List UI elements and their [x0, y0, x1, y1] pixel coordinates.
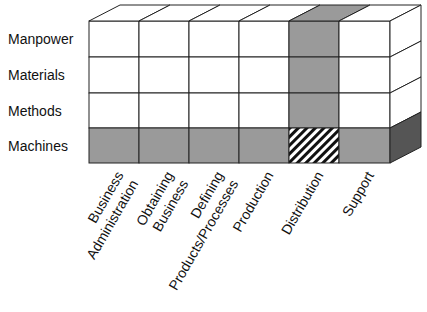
matrix-cell	[139, 21, 189, 57]
matrix-cell	[339, 21, 390, 57]
row-label: Methods	[8, 103, 62, 119]
matrix-cell	[89, 57, 139, 93]
column-label: ObtainingBusiness	[133, 169, 192, 237]
matrix-cell	[89, 128, 139, 163]
matrix-cell	[189, 21, 239, 57]
matrix-cell	[289, 57, 339, 93]
matrix-cell	[339, 57, 390, 93]
matrix-cell	[339, 93, 390, 128]
matrix-cell	[89, 21, 139, 57]
row-label: Materials	[8, 67, 65, 83]
column-label: Support	[339, 168, 377, 219]
matrix-cell	[139, 128, 189, 163]
svg-text:Production: Production	[229, 169, 276, 235]
svg-text:Distribution: Distribution	[278, 169, 327, 238]
matrix-cell	[189, 93, 239, 128]
matrix-cell	[89, 93, 139, 128]
cube-grid	[89, 5, 421, 163]
matrix-cell	[189, 128, 239, 163]
column-label: BusinessAdministration	[68, 169, 141, 262]
matrix-cell	[139, 57, 189, 93]
column-label: Production	[229, 169, 276, 235]
column-labels: BusinessAdministrationObtainingBusinessD…	[68, 168, 377, 292]
matrix-cell	[189, 57, 239, 93]
matrix-cell	[339, 128, 390, 163]
matrix-cell	[289, 128, 339, 163]
matrix-cell	[139, 93, 189, 128]
column-label: Distribution	[278, 169, 327, 238]
row-labels: ManpowerMaterialsMethodsMachines	[8, 31, 74, 154]
matrix-cell	[289, 93, 339, 128]
matrix-cell	[239, 93, 289, 128]
row-label: Manpower	[8, 31, 74, 47]
matrix-diagram: ManpowerMaterialsMethodsMachines Busines…	[0, 0, 427, 312]
matrix-cell	[239, 57, 289, 93]
svg-text:Support: Support	[339, 168, 377, 219]
matrix-cell	[289, 21, 339, 57]
matrix-cell	[239, 128, 289, 163]
matrix-cell	[239, 21, 289, 57]
row-label: Machines	[8, 138, 68, 154]
